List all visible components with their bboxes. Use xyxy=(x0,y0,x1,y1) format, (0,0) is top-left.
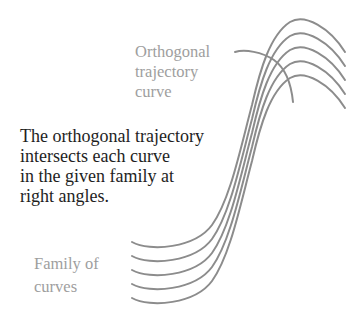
description-line-1: The orthogonal trajectory xyxy=(20,126,204,146)
orthogonal-trajectory-label-line-1: Orthogonal xyxy=(135,42,210,62)
family-of-curves-label-line-1: Family of xyxy=(34,252,99,275)
orthogonal-trajectory-label-line-3: curve xyxy=(135,82,210,102)
description-text: The orthogonal trajectory intersects eac… xyxy=(20,126,204,206)
description-line-3: in the given family at xyxy=(20,166,204,186)
description-line-4: right angles. xyxy=(20,186,204,206)
orthogonal-trajectory-label-line-2: trajectory xyxy=(135,62,210,82)
family-of-curves-label-line-2: curves xyxy=(34,275,99,298)
description-line-2: intersects each curve xyxy=(20,146,204,166)
family-of-curves-label: Family of curves xyxy=(34,252,99,298)
orthogonal-trajectory-label: Orthogonal trajectory curve xyxy=(135,42,210,102)
